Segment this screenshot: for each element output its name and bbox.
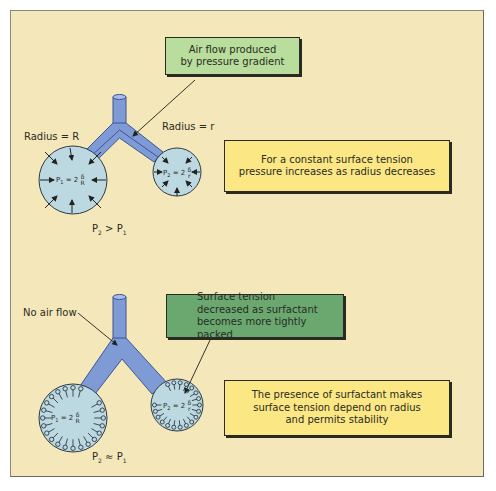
label-radius-small: Radius = r: [162, 121, 214, 132]
equation-top-large: P1 = 2 δ R: [56, 174, 85, 186]
callout-pointer-surfactant: [185, 338, 211, 393]
top-bronchial-tree: [84, 95, 163, 163]
info-box-constant-tension: For a constant surface tension pressure …: [224, 140, 450, 192]
info-box-surfactant-stability: The presence of surfactant makes surface…: [224, 380, 450, 436]
callout-surfactant-line2: decreased as surfactant: [197, 304, 343, 317]
pressure-relation-bottom: P2 ≈ P1: [92, 451, 126, 464]
callout-airflow-line1: Air flow produced: [181, 44, 285, 57]
pointer-no-airflow: [78, 313, 117, 345]
pressure-relation-top: P2 > P1: [92, 223, 126, 236]
equation-bottom-small: P2 = 2 δ r: [163, 400, 191, 412]
callout-surfactant-box: Surface tension decreased as surfactant …: [166, 294, 344, 338]
callout-surfactant-line1: Surface tension: [197, 291, 343, 304]
callout-airflow-box: Air flow produced by pressure gradient: [165, 37, 300, 75]
callout-airflow-line2: by pressure gradient: [181, 56, 285, 69]
info-box-top-line2: pressure increases as radius decreases: [239, 166, 435, 179]
bottom-bronchial-tree: [80, 295, 168, 395]
equation-bottom-large: P1 = 2 δ R: [51, 412, 80, 424]
equation-top-small: P2 = 2 δ r: [163, 167, 191, 179]
label-radius-large: Radius = R: [24, 131, 79, 142]
info-box-bottom-line2: surface tension depend on radius: [252, 402, 422, 415]
info-box-bottom-line3: and permits stability: [252, 414, 422, 427]
label-no-airflow: No air flow: [23, 307, 77, 318]
info-box-top-line1: For a constant surface tension: [239, 154, 435, 167]
info-box-bottom-line1: The presence of surfactant makes: [252, 389, 422, 402]
callout-surfactant-line3: becomes more tightly packed: [197, 316, 343, 341]
